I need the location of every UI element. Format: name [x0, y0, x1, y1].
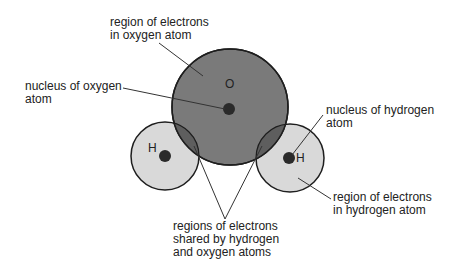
label-oxygen-electron-region: region of electrons in oxygen atom: [110, 16, 209, 42]
hydrogen-right-symbol: H: [296, 151, 305, 165]
label-hydrogen-electron-region: region of electrons in hydrogen atom: [333, 191, 432, 217]
label-hydrogen-nucleus: nucleus of hydrogen atom: [326, 104, 434, 130]
oxygen-symbol: O: [225, 77, 234, 91]
hydrogen-left-nucleus: [159, 150, 171, 162]
hydrogen-left-symbol: H: [148, 141, 157, 155]
label-shared-electron-regions: regions of electrons shared by hydrogen …: [173, 220, 279, 259]
label-oxygen-nucleus: nucleus of oxygen atom: [25, 80, 122, 106]
